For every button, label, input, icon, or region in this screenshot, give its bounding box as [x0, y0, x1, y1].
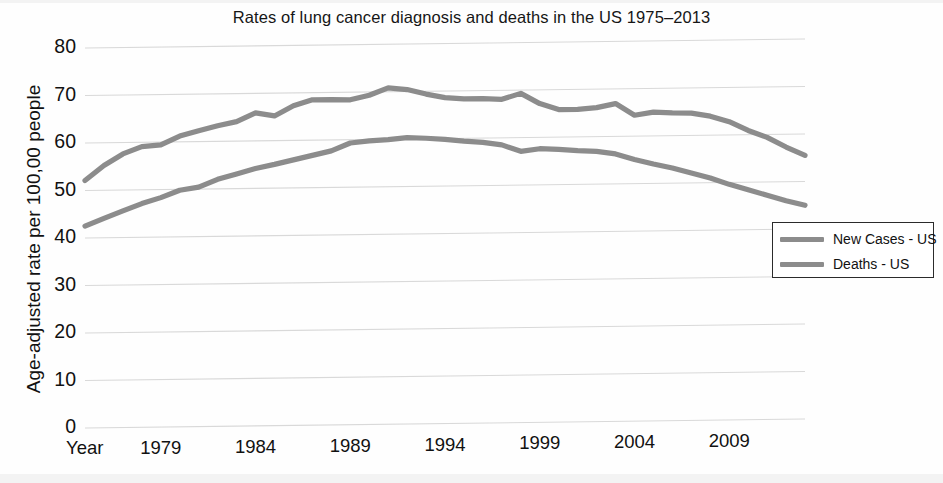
x-tick-label: 1979 — [140, 437, 181, 459]
gridline — [85, 87, 805, 96]
chart-screenshot: Rates of lung cancer diagnosis and death… — [0, 0, 943, 483]
gridline — [85, 419, 805, 428]
gridline — [85, 324, 805, 333]
x-tick-label: 1989 — [330, 435, 371, 457]
chart-legend[interactable]: New Cases - USDeaths - US — [772, 222, 934, 278]
series-lines — [85, 88, 805, 226]
x-tick-label: 1984 — [235, 436, 276, 458]
y-tick-label: 20 — [36, 322, 76, 342]
y-tick-label: 80 — [36, 37, 76, 57]
chart-plot-svg — [85, 48, 805, 428]
scan-edge-bottom — [0, 474, 943, 483]
gridline — [85, 372, 805, 381]
x-tick-label: 2009 — [709, 430, 750, 452]
y-tick-label: 60 — [36, 132, 76, 152]
x-axis-tick-labels: 1979198419891994199920042009 — [0, 436, 943, 466]
y-tick-label: 70 — [36, 85, 76, 105]
x-tick-label: 1994 — [424, 434, 465, 456]
x-tick-label: 1999 — [519, 432, 560, 454]
y-tick-label: 50 — [36, 180, 76, 200]
chart-title: Rates of lung cancer diagnosis and death… — [0, 8, 943, 27]
plot-area — [85, 48, 805, 428]
legend-item-deaths[interactable]: Deaths - US — [780, 254, 909, 274]
y-tick-label: 10 — [36, 370, 76, 390]
legend-swatch — [780, 262, 824, 267]
y-tick-label: 40 — [36, 227, 76, 247]
y-tick-label: 0 — [36, 417, 76, 437]
series-line-deaths — [85, 138, 805, 227]
scan-edge-top — [0, 0, 943, 3]
series-line-new-cases — [85, 88, 805, 181]
x-tick-label: 2004 — [614, 431, 655, 453]
y-tick-label: 30 — [36, 275, 76, 295]
legend-item-new-cases[interactable]: New Cases - US — [780, 229, 936, 249]
gridline — [85, 277, 805, 286]
y-axis-tick-labels: 01020304050607080 — [28, 48, 76, 428]
legend-label: Deaths - US — [833, 256, 909, 272]
gridline — [85, 39, 805, 48]
legend-label: New Cases - US — [833, 231, 936, 247]
legend-swatch — [780, 237, 824, 242]
gridline — [85, 229, 805, 238]
